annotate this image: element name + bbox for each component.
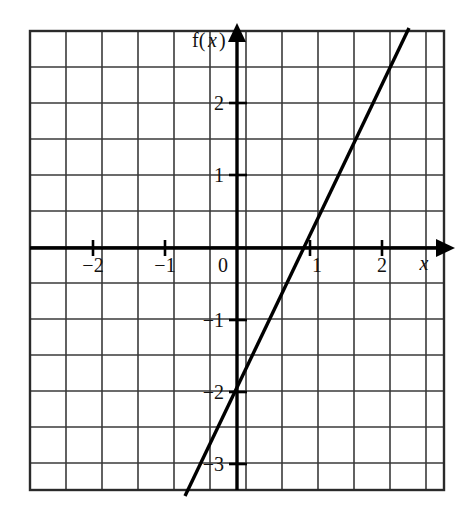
x-tick-label-2: 2 — [377, 254, 387, 276]
graph-figure: −2 −1 0 1 2 2 1 −1 −2 −3 f( x ) x — [0, 0, 466, 510]
x-tick-label-1: 1 — [312, 254, 322, 276]
x-tick-label--1: −1 — [154, 254, 175, 276]
y-axis-label: f( x ) — [192, 29, 226, 52]
y-tick-label-2: 2 — [214, 92, 224, 114]
y-tick-label-1: 1 — [214, 164, 224, 186]
chart-background — [0, 0, 466, 510]
y-tick-label--2: −2 — [203, 381, 224, 403]
y-tick-label--3: −3 — [203, 453, 224, 475]
x-axis-label: x — [419, 252, 429, 274]
y-tick-label--1: −1 — [203, 309, 224, 331]
y-axis-label-close: ) — [219, 29, 226, 52]
y-axis-label-fn: f( — [192, 29, 206, 52]
y-axis-label-var: x — [207, 29, 217, 51]
x-tick-label-0: 0 — [218, 254, 228, 276]
x-tick-label--2: −2 — [82, 254, 103, 276]
coordinate-plane-chart: −2 −1 0 1 2 2 1 −1 −2 −3 f( x ) x — [0, 0, 466, 510]
